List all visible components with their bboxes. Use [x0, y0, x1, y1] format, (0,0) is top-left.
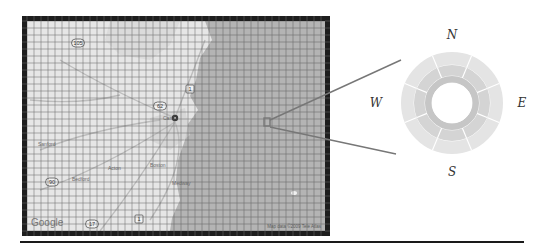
direction-label-east: E: [518, 97, 527, 109]
place-label: Bedford: [72, 176, 90, 182]
island: [291, 191, 297, 195]
place-label: Sanford: [38, 141, 56, 147]
route-shield: 105: [72, 39, 85, 47]
map-logo: Google: [31, 217, 64, 228]
figure-canvas: CamSanfordBedfordActonBostonMedway105162…: [0, 0, 548, 250]
place-label: Boston: [150, 162, 166, 168]
svg-text:105: 105: [73, 40, 82, 46]
direction-label-north: N: [447, 29, 458, 41]
ring-center-hole: [432, 83, 472, 123]
route-shield: 1: [186, 85, 194, 93]
figure: CamSanfordBedfordActonBostonMedway105162…: [0, 0, 548, 250]
direction-label-west: W: [370, 97, 382, 109]
bottom-rule: [20, 241, 524, 243]
polar-sector-diagram: [405, 56, 499, 150]
direction-label-south: S: [448, 166, 456, 178]
map-panel: CamSanfordBedfordActonBostonMedway105162…: [22, 16, 330, 236]
map-area: CamSanfordBedfordActonBostonMedway105162…: [27, 21, 325, 231]
